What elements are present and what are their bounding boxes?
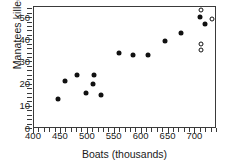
- x-axis-minor-tick: [157, 128, 158, 132]
- data-point: [98, 92, 103, 97]
- data-point: [91, 81, 96, 86]
- x-axis-minor-tick: [211, 128, 212, 132]
- y-axis-minor-tick: [27, 97, 32, 98]
- x-axis-minor-tick: [189, 128, 190, 132]
- x-axis-minor-tick: [65, 128, 66, 132]
- y-axis-minor-tick: [27, 119, 32, 120]
- x-axis-minor-tick: [200, 128, 201, 132]
- y-axis-minor-tick: [27, 57, 32, 58]
- y-axis-minor-tick: [27, 110, 32, 111]
- x-axis-minor-tick: [103, 128, 104, 132]
- data-point: [199, 41, 204, 46]
- y-axis-minor-tick: [27, 48, 32, 49]
- y-axis-minor-tick: [27, 70, 32, 71]
- x-axis-minor-tick: [108, 128, 109, 132]
- x-axis-minor-tick: [38, 128, 39, 132]
- y-axis-minor-tick: [27, 22, 32, 23]
- data-point: [199, 48, 204, 53]
- data-point: [63, 79, 68, 84]
- y-axis-major-tick: [25, 84, 32, 85]
- x-axis-minor-tick: [119, 128, 120, 132]
- x-axis-major-tick: [33, 128, 34, 133]
- y-axis-minor-tick: [27, 44, 32, 45]
- x-axis-label: Boats (thousands): [33, 148, 216, 160]
- y-axis-major-tick: [25, 106, 32, 107]
- x-axis-minor-tick: [98, 128, 99, 132]
- x-axis-minor-tick: [92, 128, 93, 132]
- x-axis-minor-tick: [173, 128, 174, 132]
- data-point: [198, 15, 203, 20]
- y-axis-minor-tick: [27, 75, 32, 76]
- x-axis-minor-tick: [81, 128, 82, 132]
- x-axis-major-tick: [141, 128, 142, 133]
- y-axis-minor-tick: [27, 88, 32, 89]
- x-axis-major-tick: [60, 128, 61, 133]
- y-axis-minor-tick: [27, 66, 32, 67]
- y-axis-minor-tick: [27, 30, 32, 31]
- x-axis-minor-tick: [184, 128, 185, 132]
- y-axis-minor-tick: [27, 35, 32, 36]
- data-point: [116, 50, 121, 55]
- y-axis-minor-tick: [27, 115, 32, 116]
- plot-area: [33, 6, 216, 128]
- x-axis-minor-tick: [71, 128, 72, 132]
- y-axis-minor-tick: [27, 53, 32, 54]
- x-axis-major-tick: [87, 128, 88, 133]
- x-axis-major-tick: [168, 128, 169, 133]
- data-point: [162, 39, 167, 44]
- x-axis-minor-tick: [178, 128, 179, 132]
- x-axis-minor-tick: [76, 128, 77, 132]
- x-axis-major-tick: [194, 128, 195, 133]
- data-point: [130, 52, 135, 57]
- y-axis-major-tick: [25, 39, 32, 40]
- x-axis-major-tick: [114, 128, 115, 133]
- x-axis-minor-tick: [162, 128, 163, 132]
- x-axis-minor-tick: [55, 128, 56, 132]
- data-point: [209, 17, 214, 22]
- y-axis-minor-tick: [27, 124, 32, 125]
- scatter-plot-figure: Manatees killed 0 10 20 30 40 50 400 450…: [0, 0, 227, 167]
- x-axis-minor-tick: [205, 128, 206, 132]
- y-axis-major-tick: [25, 17, 32, 18]
- y-axis-minor-tick: [27, 26, 32, 27]
- data-point: [179, 30, 184, 35]
- data-point: [83, 90, 88, 95]
- data-point: [91, 72, 96, 77]
- data-point: [74, 72, 79, 77]
- data-point: [198, 8, 203, 13]
- y-axis-minor-tick: [27, 79, 32, 80]
- x-axis-minor-tick: [130, 128, 131, 132]
- y-axis-minor-tick: [27, 93, 32, 94]
- x-axis-minor-tick: [44, 128, 45, 132]
- x-axis-minor-tick: [216, 128, 217, 132]
- data-point: [202, 21, 207, 26]
- x-axis-minor-tick: [49, 128, 50, 132]
- y-axis-minor-tick: [27, 101, 32, 102]
- y-axis-minor-tick: [27, 13, 32, 14]
- x-axis-minor-tick: [146, 128, 147, 132]
- y-axis-major-tick: [25, 61, 32, 62]
- y-axis-minor-tick: [27, 8, 32, 9]
- x-axis-minor-tick: [151, 128, 152, 132]
- y-axis-major-tick: [25, 128, 32, 129]
- data-point: [56, 97, 61, 102]
- x-axis-minor-tick: [135, 128, 136, 132]
- x-axis-minor-tick: [125, 128, 126, 132]
- data-point: [146, 52, 151, 57]
